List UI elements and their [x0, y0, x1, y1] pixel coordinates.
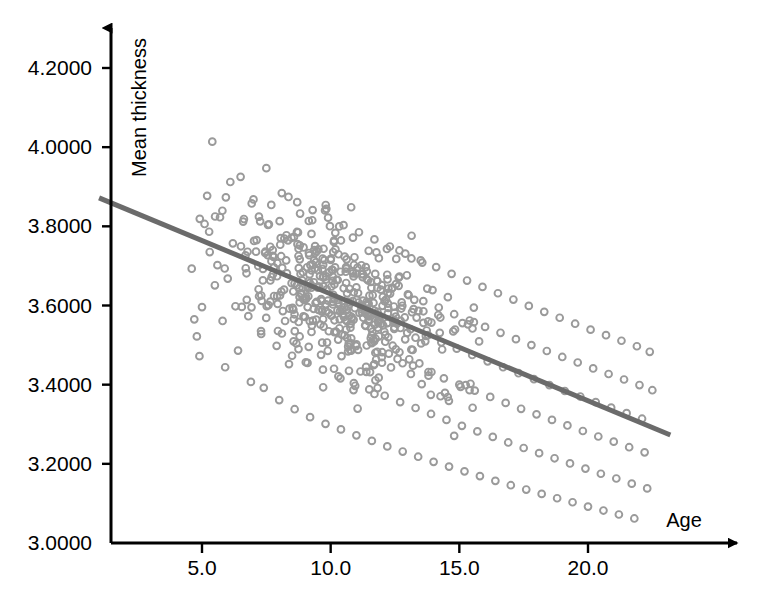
- y-tick-label: 4.2000: [28, 56, 92, 79]
- data-point: [412, 334, 419, 341]
- data-point: [338, 237, 345, 244]
- data-point: [502, 399, 509, 406]
- data-point: [204, 192, 211, 199]
- data-point: [188, 265, 195, 272]
- data-point: [307, 414, 314, 421]
- data-point: [446, 463, 453, 470]
- data-point: [285, 194, 292, 201]
- data-point: [582, 465, 589, 472]
- data-point: [435, 304, 442, 311]
- data-point: [289, 352, 296, 359]
- data-point: [253, 248, 260, 255]
- data-point: [268, 202, 275, 209]
- data-point: [209, 138, 216, 145]
- data-point: [214, 262, 221, 269]
- y-axis-title: Mean thickness: [128, 38, 150, 177]
- data-point: [406, 356, 413, 363]
- data-point: [600, 507, 607, 514]
- data-point: [196, 353, 203, 360]
- y-tick-group: 3.00003.20003.40003.60003.80004.00004.20…: [28, 56, 111, 554]
- data-point: [319, 339, 326, 346]
- data-point: [564, 422, 571, 429]
- chart-canvas: 3.00003.20003.40003.60003.80004.00004.20…: [0, 0, 762, 597]
- data-point: [510, 296, 517, 303]
- data-point: [260, 384, 267, 391]
- data-point: [356, 229, 363, 236]
- data-point: [433, 264, 440, 271]
- data-point: [476, 338, 483, 345]
- data-point: [237, 173, 244, 180]
- data-point: [572, 320, 579, 327]
- data-point: [536, 450, 543, 457]
- data-point: [324, 347, 331, 354]
- data-point: [439, 346, 446, 353]
- data-point: [408, 232, 415, 239]
- data-point: [222, 364, 229, 371]
- data-point: [403, 272, 410, 279]
- data-point: [556, 314, 563, 321]
- x-axis-title: Age: [666, 509, 702, 531]
- data-point: [219, 207, 226, 214]
- data-point: [388, 364, 395, 371]
- data-point: [487, 394, 494, 401]
- x-tick-label: 5.0: [187, 556, 216, 579]
- data-point: [229, 240, 236, 247]
- data-point: [282, 318, 289, 325]
- data-point: [273, 342, 280, 349]
- data-point: [579, 428, 586, 435]
- y-tick-label: 3.6000: [28, 294, 92, 317]
- data-point: [396, 247, 403, 254]
- data-point: [191, 316, 198, 323]
- data-point: [327, 223, 334, 230]
- data-point: [528, 342, 535, 349]
- data-point: [384, 443, 391, 450]
- data-point: [384, 271, 391, 278]
- data-point: [489, 434, 496, 441]
- data-point: [279, 308, 286, 315]
- data-point: [371, 236, 378, 243]
- data-point: [320, 384, 327, 391]
- data-point: [224, 275, 231, 282]
- data-point: [420, 298, 427, 305]
- data-point: [461, 468, 468, 475]
- data-point: [325, 214, 332, 221]
- data-point: [618, 337, 625, 344]
- data-point: [641, 449, 648, 456]
- data-point: [413, 314, 420, 321]
- data-point: [451, 432, 458, 439]
- data-point: [211, 282, 218, 289]
- data-point: [518, 405, 525, 412]
- data-point: [263, 165, 270, 172]
- data-point: [646, 348, 653, 355]
- data-point: [412, 405, 419, 412]
- data-point: [551, 455, 558, 462]
- data-point: [470, 304, 477, 311]
- data-point: [416, 360, 423, 367]
- data-point: [335, 336, 342, 343]
- data-point: [276, 218, 283, 225]
- data-point: [365, 247, 372, 254]
- data-point: [464, 277, 471, 284]
- data-point: [628, 480, 635, 487]
- data-point: [569, 499, 576, 506]
- data-point: [354, 405, 361, 412]
- data-point: [418, 381, 425, 388]
- data-point: [385, 350, 392, 357]
- data-point: [415, 453, 422, 460]
- data-point: [633, 343, 640, 350]
- scatter-plot-figure: 3.00003.20003.40003.60003.80004.00004.20…: [0, 0, 762, 597]
- data-point: [615, 511, 622, 518]
- data-point: [368, 437, 375, 444]
- data-point: [331, 365, 338, 372]
- data-point: [590, 365, 597, 372]
- data-point: [219, 318, 226, 325]
- data-point: [381, 392, 388, 399]
- data-point: [525, 303, 532, 310]
- data-point: [346, 367, 353, 374]
- data-point: [451, 311, 458, 318]
- data-point: [399, 448, 406, 455]
- data-point: [621, 376, 628, 383]
- data-point: [407, 371, 414, 378]
- data-point: [574, 359, 581, 366]
- data-point: [631, 515, 638, 522]
